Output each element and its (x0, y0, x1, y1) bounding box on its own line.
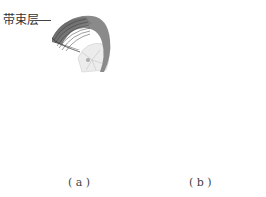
belt-layer-leader-line (35, 20, 51, 21)
tire-diagram (0, 0, 266, 197)
belt-layer-label: 带束层 (3, 13, 39, 27)
caption-a: ( a ) (68, 177, 90, 189)
tire-3d-a (52, 16, 110, 72)
caption-b: ( b ) (189, 177, 212, 189)
